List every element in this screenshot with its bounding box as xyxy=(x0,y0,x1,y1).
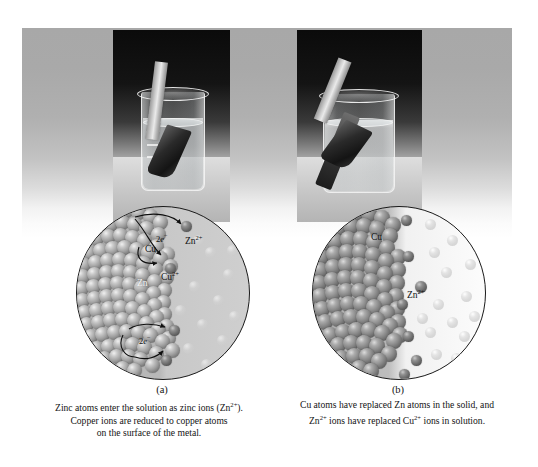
caption-a: Zinc atoms enter the solution as zinc io… xyxy=(24,399,274,440)
beaker-rim-a xyxy=(137,87,209,101)
caption-b-cu-charge: 2+ xyxy=(414,414,421,421)
panel-letter-b: (b) xyxy=(368,384,428,395)
caption-a-line-1: Zinc atoms enter the solution as zinc io… xyxy=(24,399,274,415)
label-zn-solid-a: Zn xyxy=(137,279,148,289)
caption-b-zn-charge: 2+ xyxy=(320,414,327,421)
label-cu-solid-b: Cu xyxy=(371,233,382,243)
caption-a-line-2: Copper ions are reduced to copper atoms xyxy=(24,415,274,428)
label-zn-ion-b: Zn2+ xyxy=(407,289,424,301)
label-zn-ion-text: Zn xyxy=(407,290,418,300)
beaker-photo-b: 30 20 xyxy=(297,30,422,222)
label-zn-ion-charge: 2+ xyxy=(196,234,203,241)
magnification-circle-b: Cu Zn2+ xyxy=(312,206,486,380)
label-cu-ion-a: Cu2+ xyxy=(161,271,179,283)
caption-b-line-1: Cu atoms have replaced Zn atoms in the s… xyxy=(272,399,522,412)
figure-root: 30 20 30 20 xyxy=(0,0,538,467)
label-cu-ion-text: Cu xyxy=(161,272,172,282)
electron-charge: − xyxy=(147,334,151,341)
caption-b-zn: Zn xyxy=(309,415,320,426)
label-zn-ion-text: Zn xyxy=(185,236,196,246)
electron-charge: − xyxy=(164,232,168,239)
label-zn-ion-a: Zn2+ xyxy=(185,235,202,247)
graduation-mark xyxy=(147,144,158,146)
caption-a-line-1-post: ). xyxy=(237,402,243,413)
label-cu-atom-a: Cu xyxy=(145,245,156,255)
label-electrons-bottom-a: 2e− xyxy=(139,335,151,345)
beaker-photo-a: 30 20 xyxy=(113,30,230,222)
caption-b-post: ions in solution. xyxy=(421,415,485,426)
label-electrons-top-a: 2e− xyxy=(156,233,168,243)
label-cu-ion-charge: 2+ xyxy=(172,270,179,277)
magnification-circle-a: Cu Zn Zn2+ Cu2+ 2e− 2e− xyxy=(76,206,250,380)
caption-b-line-2: Zn2+ ions have replaced Cu2+ ions in sol… xyxy=(272,412,522,428)
panel-letter-a: (a) xyxy=(132,384,192,395)
caption-b: Cu atoms have replaced Zn atoms in the s… xyxy=(272,399,522,427)
caption-b-mid: ions have replaced Cu xyxy=(327,415,414,426)
label-zn-ion-charge: 2+ xyxy=(418,288,425,295)
caption-a-line-3: on the surface of the metal. xyxy=(24,427,274,440)
caption-a-line-1-pre: Zinc atoms enter the solution as zinc io… xyxy=(55,402,230,413)
